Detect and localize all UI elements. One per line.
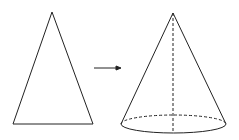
- arrow-icon: [94, 66, 121, 70]
- cone-shape: [121, 13, 226, 133]
- triangle-shape: [13, 12, 93, 124]
- cone-left-edge: [121, 13, 173, 124]
- cone-right-edge: [173, 13, 226, 124]
- diagram-canvas: [0, 0, 239, 140]
